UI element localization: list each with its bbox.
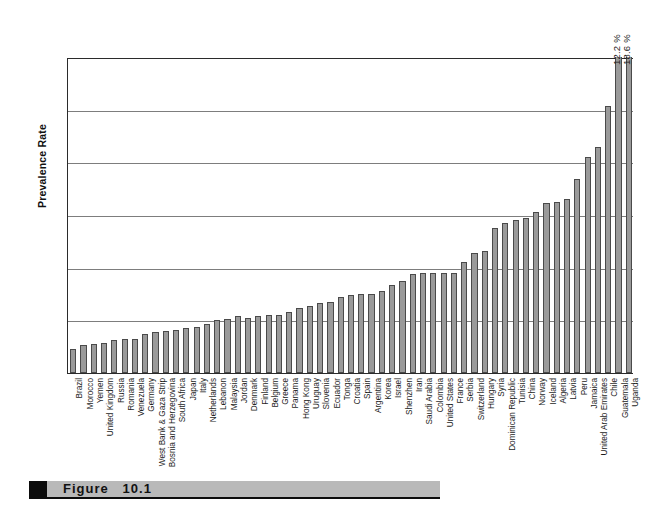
caption-text: Figure 10.1	[63, 481, 152, 497]
bar-value-label: 12.2 %	[611, 34, 622, 65]
bar-value-label: 18.6 %	[621, 34, 632, 65]
figure-container: Prevalence Rate 0%2%4%6%8%10%12% BrazilM…	[0, 0, 651, 512]
caption-underline	[29, 497, 440, 499]
bar-value-labels: 12.2 %18.6 %	[0, 0, 651, 512]
caption-number: 10.1	[123, 481, 152, 496]
figure-caption: Figure 10.1	[29, 481, 440, 497]
caption-marker-square	[29, 481, 47, 497]
caption-label: Figure	[63, 481, 109, 496]
